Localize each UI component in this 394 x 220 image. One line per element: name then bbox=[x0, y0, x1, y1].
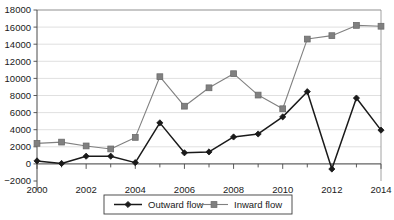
chart-canvas: −200002000400060008000100001200014000160… bbox=[0, 0, 394, 220]
data-point-inward-2000 bbox=[34, 140, 40, 146]
y-axis-label-8000: 8000 bbox=[10, 90, 31, 101]
data-point-inward-2003 bbox=[108, 146, 114, 152]
x-axis-label-2014: 2014 bbox=[370, 184, 391, 195]
x-axis-label-2000: 2000 bbox=[26, 184, 47, 195]
y-axis-label-10000: 10000 bbox=[5, 73, 31, 84]
line-chart: −200002000400060008000100001200014000160… bbox=[0, 0, 394, 220]
y-axis-label-16000: 16000 bbox=[5, 22, 31, 33]
y-axis-label-2000: 2000 bbox=[10, 141, 31, 152]
data-point-inward-2001 bbox=[59, 139, 65, 145]
data-point-inward-2009 bbox=[255, 92, 261, 98]
data-point-inward-2013 bbox=[354, 22, 360, 28]
legend-label-outward-flow: Outward flow bbox=[148, 199, 204, 210]
x-axis-label-2004: 2004 bbox=[125, 184, 146, 195]
legend-label-inward-flow: Inward flow bbox=[234, 199, 282, 210]
y-axis-label-14000: 14000 bbox=[5, 39, 31, 50]
data-point-inward-2012 bbox=[329, 33, 335, 39]
data-point-inward-2011 bbox=[304, 36, 310, 42]
y-axis-label-4000: 4000 bbox=[10, 124, 31, 135]
y-axis-label-6000: 6000 bbox=[10, 107, 31, 118]
data-point-outward-2012 bbox=[329, 166, 335, 172]
y-axis-label-18000: 18000 bbox=[5, 4, 31, 15]
data-point-outward-2001 bbox=[58, 160, 64, 166]
x-axis-label-2012: 2012 bbox=[321, 184, 342, 195]
x-axis-label-2010: 2010 bbox=[272, 184, 293, 195]
data-point-outward-2003 bbox=[108, 153, 114, 159]
data-point-inward-2007 bbox=[206, 85, 212, 91]
legend-marker-square-icon bbox=[211, 202, 217, 208]
x-axis-label-2008: 2008 bbox=[223, 184, 244, 195]
x-axis-label-2002: 2002 bbox=[76, 184, 97, 195]
data-point-inward-2010 bbox=[280, 106, 286, 112]
data-point-inward-2004 bbox=[132, 134, 138, 140]
data-point-outward-2000 bbox=[34, 158, 40, 164]
y-axis-label-12000: 12000 bbox=[5, 56, 31, 67]
data-point-inward-2008 bbox=[231, 71, 237, 77]
y-axis-label-0: 0 bbox=[26, 158, 31, 169]
x-axis-label-2006: 2006 bbox=[174, 184, 195, 195]
data-point-inward-2014 bbox=[378, 23, 384, 29]
series-line-outward bbox=[37, 92, 381, 169]
data-point-inward-2006 bbox=[182, 103, 188, 109]
data-point-inward-2002 bbox=[83, 143, 89, 149]
data-point-outward-2002 bbox=[83, 153, 89, 159]
data-point-inward-2005 bbox=[157, 74, 163, 80]
